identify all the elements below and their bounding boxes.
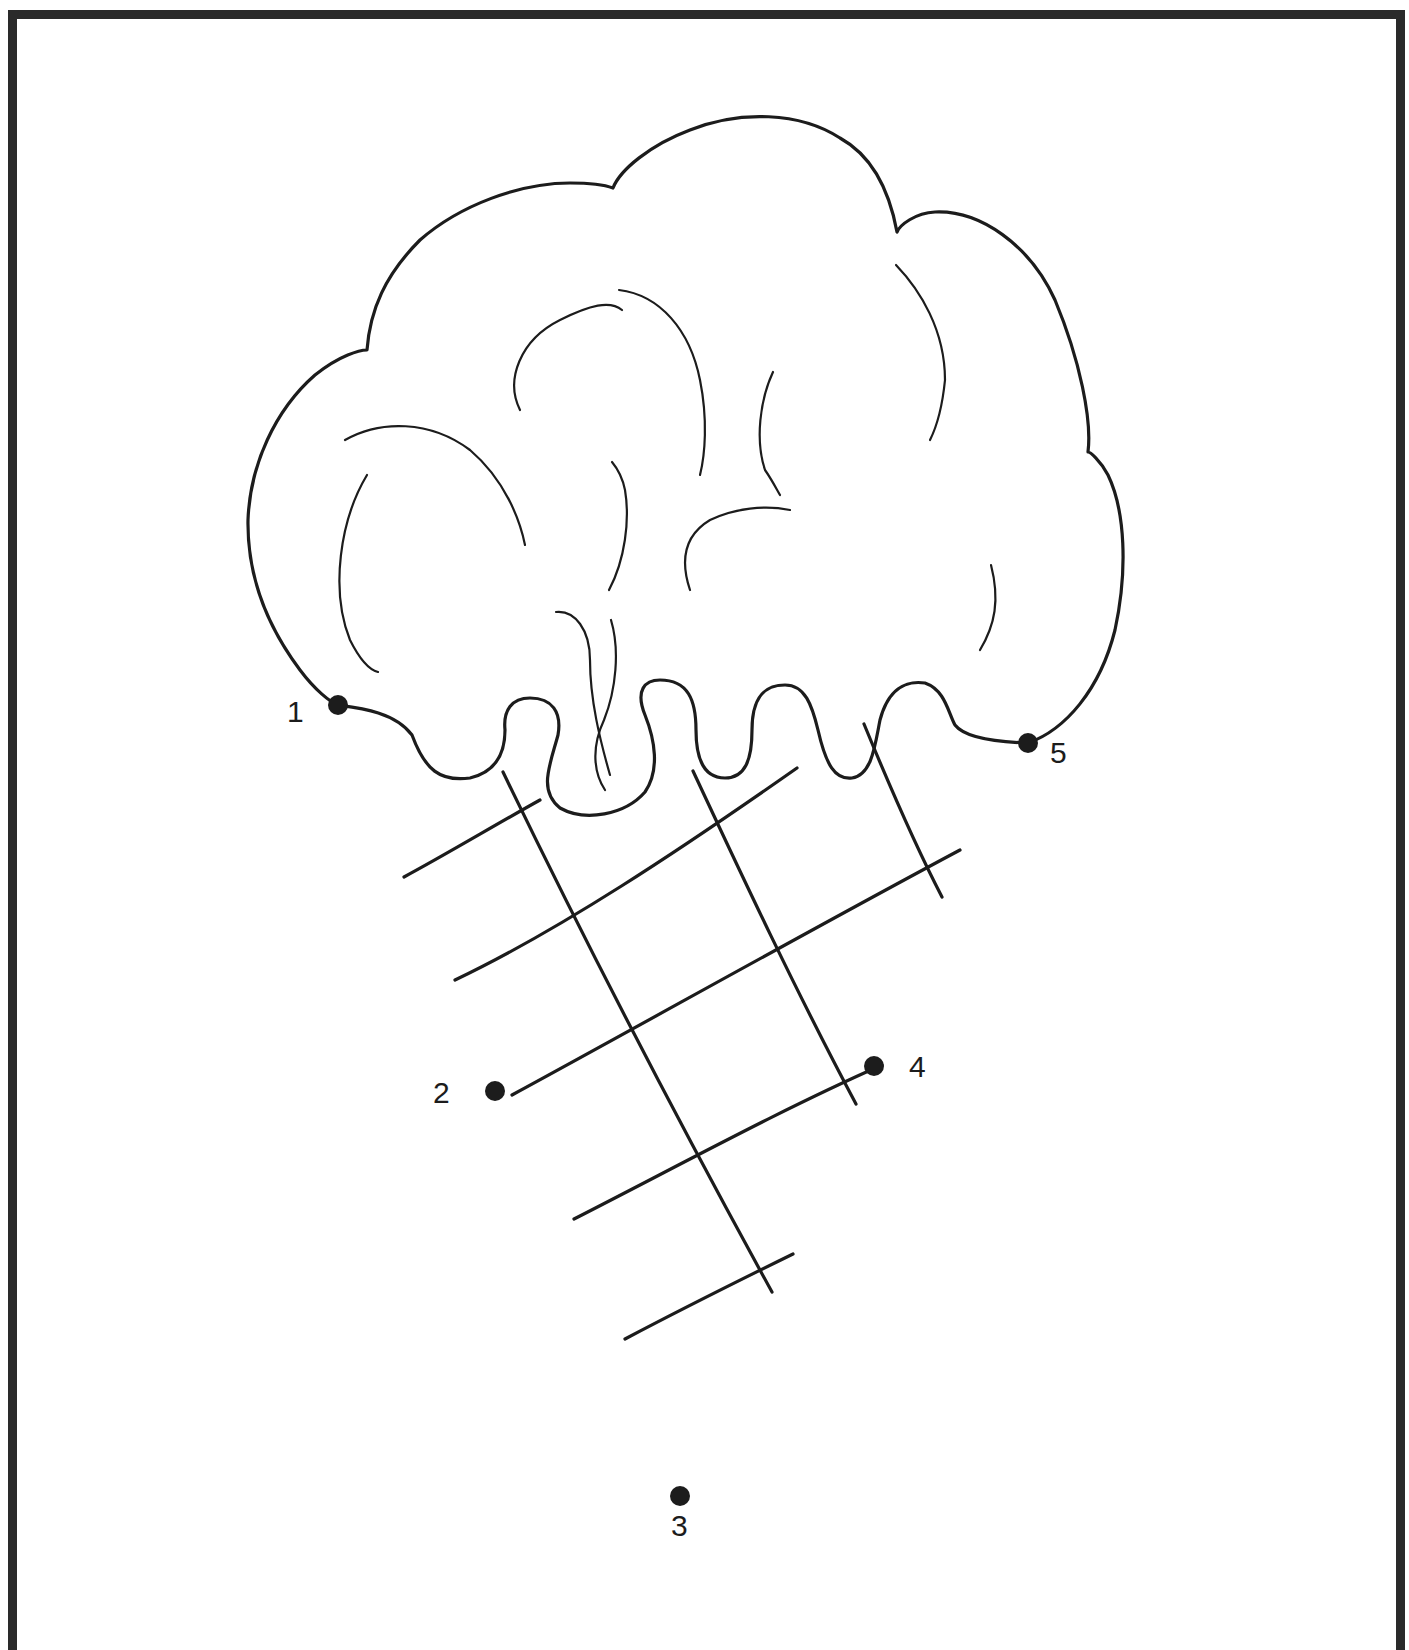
drip-swirl-line bbox=[556, 612, 610, 775]
dot-1[interactable] bbox=[328, 695, 348, 715]
dot-3[interactable] bbox=[670, 1486, 690, 1506]
cone-line bbox=[404, 800, 540, 877]
dot-label-2: 2 bbox=[433, 1078, 450, 1108]
swirl-line bbox=[980, 565, 995, 650]
dot-label-4: 4 bbox=[909, 1052, 926, 1082]
swirl-line bbox=[609, 462, 627, 590]
dot-4[interactable] bbox=[864, 1056, 884, 1076]
dot-label-5: 5 bbox=[1050, 738, 1067, 768]
drip-swirl-line bbox=[595, 620, 616, 790]
cone-line bbox=[625, 1254, 793, 1339]
swirl-line bbox=[685, 508, 790, 590]
swirl-line bbox=[339, 475, 378, 672]
cone-line bbox=[864, 724, 942, 897]
swirl-line bbox=[345, 426, 525, 545]
ice-cream-scoop-outline bbox=[248, 117, 1123, 816]
swirl-line bbox=[896, 265, 945, 440]
dot-label-3: 3 bbox=[671, 1511, 688, 1541]
cone-line bbox=[693, 771, 856, 1104]
cone-line bbox=[512, 850, 960, 1095]
dot-2[interactable] bbox=[485, 1081, 505, 1101]
cone-line bbox=[455, 768, 797, 980]
swirl-line bbox=[514, 305, 622, 410]
dot-5[interactable] bbox=[1018, 733, 1038, 753]
dot-label-1: 1 bbox=[287, 697, 304, 727]
swirl-line bbox=[760, 372, 780, 495]
cone-line bbox=[574, 1065, 882, 1219]
swirl-line bbox=[619, 290, 705, 475]
